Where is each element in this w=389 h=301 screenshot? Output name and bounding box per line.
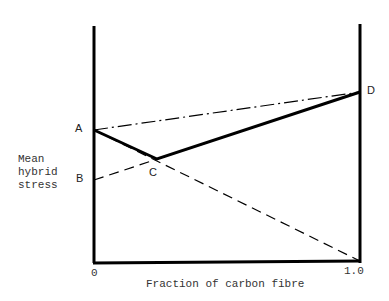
y-label-line-3: stress xyxy=(18,179,58,192)
point-label-c: C xyxy=(149,166,157,178)
bottom-axis xyxy=(93,261,361,263)
hybrid-stress-diagram xyxy=(0,0,389,301)
point-label-a: A xyxy=(75,122,82,134)
y-label-line-2: hybrid xyxy=(18,166,58,179)
x-tick-0: 0 xyxy=(91,267,98,280)
y-axis-label: Mean hybrid stress xyxy=(18,153,58,192)
line-a-c-d-solid xyxy=(94,92,360,159)
x-axis-label: Fraction of carbon fibre xyxy=(146,278,304,291)
point-label-d: D xyxy=(367,84,375,96)
y-label-line-1: Mean xyxy=(18,153,58,166)
line-a-d-dashdot xyxy=(94,92,360,130)
point-label-b: B xyxy=(76,172,83,184)
x-tick-1: 1.0 xyxy=(344,265,364,278)
